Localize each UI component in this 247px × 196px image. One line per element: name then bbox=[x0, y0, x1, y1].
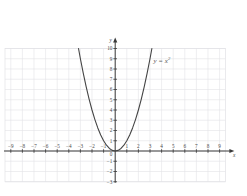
y-tick-label: 5 bbox=[110, 97, 113, 103]
y-tick-label: 7 bbox=[110, 76, 113, 82]
y-axis-name: y bbox=[109, 37, 113, 43]
y-tick-label: 9 bbox=[110, 56, 113, 62]
x-tick-label: 7 bbox=[195, 143, 198, 149]
x-tick-label: 4 bbox=[160, 143, 163, 149]
equation-base-text: y = x bbox=[152, 57, 168, 65]
y-tick-label: 6 bbox=[110, 86, 113, 92]
x-tick-label: −9 bbox=[8, 143, 14, 149]
curve-equation-label: y = x2 bbox=[152, 56, 170, 64]
equation-annotation: y = x2 bbox=[152, 56, 170, 64]
y-tick-label: −3 bbox=[107, 179, 113, 185]
x-tick-label: 1 bbox=[126, 143, 129, 149]
y-tick-label: 2 bbox=[110, 127, 113, 133]
x-tick-label: 9 bbox=[218, 143, 221, 149]
x-tick-label: −6 bbox=[43, 143, 49, 149]
x-tick-label: 6 bbox=[184, 143, 187, 149]
x-tick-label: 8 bbox=[207, 143, 210, 149]
y-tick-label: 10 bbox=[107, 45, 113, 51]
axis-tick-labels: −9−8−7−6−5−4−3−2−1123456789−3−2−11234567… bbox=[8, 45, 221, 184]
origin-label: 0 bbox=[110, 151, 113, 157]
y-axis-arrowhead bbox=[113, 38, 117, 43]
y-tick-label: 3 bbox=[110, 117, 113, 123]
x-tick-label: −2 bbox=[89, 143, 95, 149]
x-tick-label: 5 bbox=[172, 143, 175, 149]
y-tick-label: 4 bbox=[110, 107, 113, 113]
x-tick-label: −8 bbox=[20, 143, 26, 149]
y-tick-label: −1 bbox=[107, 158, 113, 164]
x-tick-label: −3 bbox=[78, 143, 84, 149]
x-tick-label: 2 bbox=[137, 143, 140, 149]
chart-canvas: −9−8−7−6−5−4−3−2−1123456789−3−2−11234567… bbox=[0, 0, 247, 196]
x-tick-label: −5 bbox=[54, 143, 60, 149]
x-tick-label: −7 bbox=[31, 143, 37, 149]
y-tick-label: −2 bbox=[107, 168, 113, 174]
x-tick-label: 3 bbox=[149, 143, 152, 149]
y-tick-label: 1 bbox=[110, 138, 113, 144]
x-tick-label: −4 bbox=[66, 143, 72, 149]
x-axis-name: x bbox=[232, 152, 236, 158]
y-tick-label: 8 bbox=[110, 66, 113, 72]
parabola-chart-figure: −9−8−7−6−5−4−3−2−1123456789−3−2−11234567… bbox=[0, 0, 247, 196]
